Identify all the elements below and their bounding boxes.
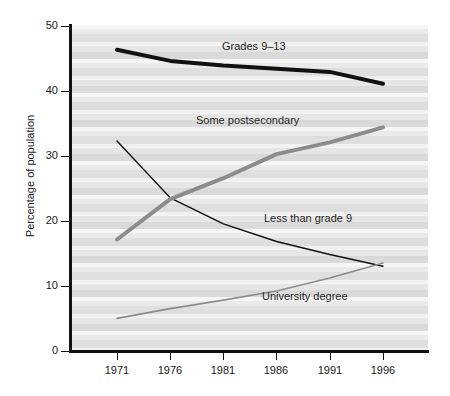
y-tick-label: 10	[18, 280, 58, 291]
annotation-some-postsecondary: Some postsecondary	[196, 114, 299, 126]
plot-area: Grades 9–13 Some postsecondary Less than…	[72, 25, 428, 351]
y-axis-line	[69, 24, 72, 353]
y-axis-title: Percentage of population	[24, 76, 36, 276]
y-tick-mark	[61, 351, 69, 352]
x-tick-mark	[330, 353, 331, 360]
y-tick-mark	[61, 156, 69, 157]
annotation-grades-9-13: Grades 9–13	[222, 40, 286, 52]
x-tick-mark	[117, 353, 118, 360]
x-axis-line	[69, 350, 429, 353]
y-tick-mark	[61, 286, 69, 287]
x-tick-mark	[223, 353, 224, 360]
x-tick-mark	[276, 353, 277, 360]
annotation-less-than-grade-9: Less than grade 9	[264, 212, 352, 224]
y-tick-label: 50	[18, 20, 58, 31]
x-tick-label: 1981	[193, 364, 253, 376]
x-tick-mark	[170, 353, 171, 360]
x-tick-label: 1996	[353, 364, 413, 376]
series-layer	[72, 25, 428, 351]
x-tick-label: 1986	[246, 364, 306, 376]
x-tick-label: 1991	[300, 364, 360, 376]
y-tick-mark	[61, 221, 69, 222]
x-tick-label: 1971	[87, 364, 147, 376]
y-tick-label: 40	[18, 85, 58, 96]
annotation-university-degree: University degree	[262, 290, 348, 302]
x-tick-mark	[383, 353, 384, 360]
series-line-grades-9-13	[117, 50, 383, 84]
chart-figure: Percentage of population 50 40 30 20 10 …	[0, 0, 450, 396]
y-tick-label: 20	[18, 215, 58, 226]
series-line-less-than-grade-9	[117, 141, 383, 266]
y-tick-label: 30	[18, 150, 58, 161]
y-tick-mark	[61, 91, 69, 92]
y-tick-mark	[61, 26, 69, 27]
x-tick-label: 1976	[140, 364, 200, 376]
y-tick-label: 0	[18, 345, 58, 356]
